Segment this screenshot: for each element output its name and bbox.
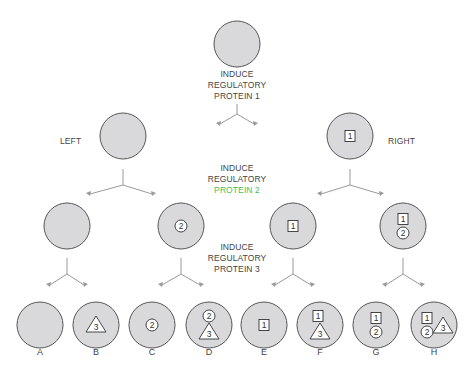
step-2-line-3: PROTEIN 2	[182, 185, 292, 196]
arrowhead-icon	[216, 121, 221, 126]
marker-number: 2	[179, 221, 184, 231]
cell-H: 123	[411, 302, 457, 348]
fork-arrow	[46, 258, 88, 287]
cell-B: 3	[73, 302, 119, 348]
step-2-line-1: INDUCE	[182, 163, 292, 174]
branch-label-right: RIGHT	[388, 136, 415, 147]
cell-D: 23	[186, 302, 232, 348]
marker-number: 3	[318, 329, 323, 339]
cell-C: 2	[129, 302, 175, 348]
step-label-protein-2: INDUCE REGULATORY PROTEIN 2	[182, 163, 292, 196]
marker-number: 1	[348, 131, 353, 141]
fork-arrow	[216, 104, 258, 126]
arrowhead-icon	[86, 191, 91, 196]
cell-E: 1	[241, 302, 287, 348]
arrowhead-icon	[379, 191, 384, 196]
marker-number: 2	[401, 228, 406, 238]
arrowhead-icon	[151, 191, 156, 196]
cell-G: 12	[353, 302, 399, 348]
leaf-label-b: B	[86, 347, 106, 358]
marker-number: 2	[150, 320, 155, 330]
branch-label-left: LEFT	[60, 136, 81, 147]
step-1-line-2: REGULATORY	[182, 80, 292, 91]
cell-F: 13	[297, 302, 343, 348]
leaf-label-d: D	[199, 347, 219, 358]
step-1-line-3: PROTEIN 1	[182, 91, 292, 102]
marker-number: 3	[441, 323, 446, 333]
cell-root	[214, 21, 260, 67]
fork-arrow	[317, 169, 384, 196]
step-3-line-2: REGULATORY	[182, 253, 292, 264]
step-3-line-1: INDUCE	[182, 242, 292, 253]
arrowhead-icon	[420, 282, 425, 287]
marker-number: 1	[291, 221, 296, 231]
arrowhead-icon	[271, 282, 276, 287]
marker-number: 1	[374, 313, 379, 323]
marker-number: 3	[207, 329, 212, 339]
fork-arrow	[86, 169, 156, 196]
marker-number: 3	[94, 322, 99, 332]
marker-number: 1	[401, 214, 406, 224]
cell-left-left	[44, 203, 90, 249]
leaf-label-c: C	[142, 347, 162, 358]
fork-arrow	[382, 258, 425, 287]
arrowhead-icon	[382, 282, 387, 287]
arrowhead-icon	[158, 282, 163, 287]
leaf-label-a: A	[30, 347, 50, 358]
step-2-line-2: REGULATORY	[182, 174, 292, 185]
arrowhead-icon	[199, 282, 204, 287]
leaf-label-h: H	[424, 347, 444, 358]
leaf-label-g: G	[366, 347, 386, 358]
cell-right: 1	[327, 113, 373, 159]
cell-right-right: 12	[380, 203, 426, 249]
step-1-line-1: INDUCE	[182, 69, 292, 80]
cell-A	[17, 302, 63, 348]
marker-number: 1	[425, 313, 430, 323]
marker-number: 2	[425, 327, 430, 337]
cell-left	[100, 113, 146, 159]
arrowhead-icon	[46, 282, 51, 287]
step-label-protein-1: INDUCE REGULATORY PROTEIN 1	[182, 69, 292, 102]
arrowhead-icon	[83, 282, 88, 287]
arrowhead-icon	[310, 282, 315, 287]
arrowhead-icon	[253, 121, 258, 126]
leaf-label-e: E	[254, 347, 274, 358]
arrowhead-icon	[317, 191, 322, 196]
leaf-label-f: F	[310, 347, 330, 358]
step-3-line-3: PROTEIN 3	[182, 264, 292, 275]
marker-number: 1	[316, 311, 321, 321]
step-label-protein-3: INDUCE REGULATORY PROTEIN 3	[182, 242, 292, 275]
marker-number: 2	[207, 311, 212, 321]
marker-number: 2	[374, 327, 379, 337]
marker-number: 1	[262, 320, 267, 330]
